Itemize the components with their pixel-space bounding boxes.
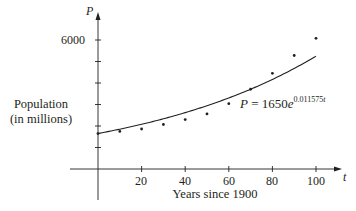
x-tick-label-60: 60 bbox=[223, 174, 235, 189]
y-axis-label: Population (in millions) bbox=[2, 97, 80, 127]
data-point bbox=[249, 88, 252, 91]
x-axis-variable: t bbox=[343, 170, 346, 185]
eq-exponent: 0.011575t bbox=[294, 95, 326, 104]
y-tick-label-6000: 6000 bbox=[61, 33, 85, 48]
x-tick-label-80: 80 bbox=[266, 174, 278, 189]
x-tick-label-20: 20 bbox=[135, 174, 147, 189]
data-point bbox=[162, 123, 165, 126]
data-point bbox=[184, 118, 187, 121]
data-points bbox=[97, 37, 318, 135]
y-axis-variable: P bbox=[86, 4, 93, 19]
eq-equals: = 1650 bbox=[248, 96, 288, 111]
data-point bbox=[271, 72, 274, 75]
x-axis-label: Years since 1900 bbox=[150, 187, 280, 202]
data-point bbox=[118, 130, 121, 133]
y-axis-label-line2: (in millions) bbox=[2, 112, 80, 127]
data-point bbox=[227, 102, 230, 105]
x-tick-label-100: 100 bbox=[307, 174, 325, 189]
data-point bbox=[293, 54, 296, 57]
data-point bbox=[97, 132, 100, 135]
model-equation: P = 1650e0.011575t bbox=[240, 95, 326, 112]
data-point bbox=[206, 113, 209, 116]
data-point bbox=[140, 128, 143, 131]
y-axis-label-line1: Population bbox=[2, 97, 80, 112]
x-tick-label-40: 40 bbox=[179, 174, 191, 189]
eq-p: P bbox=[240, 96, 248, 111]
data-point bbox=[315, 37, 318, 40]
